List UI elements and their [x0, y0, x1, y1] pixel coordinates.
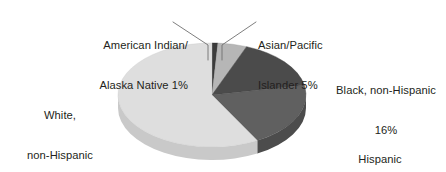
slice-label-line1: Asian/Pacific	[258, 39, 388, 52]
slice-label-line1: White,	[8, 109, 112, 122]
slice-label-line2: non-Hispanic	[8, 149, 112, 162]
slice-label-line1: American Indian/	[48, 39, 188, 52]
slice-label-hispanic: Hispanic 20%	[330, 126, 430, 172]
slice-label-line1: Black, non-Hispanic	[328, 84, 444, 97]
slice-label-line1: Hispanic	[330, 153, 430, 166]
slice-label-white-non-hispanic: White, non-Hispanic 58%	[8, 82, 112, 172]
pie-chart-figure: American Indian/ Alaska Native 1% Asian/…	[0, 0, 446, 172]
